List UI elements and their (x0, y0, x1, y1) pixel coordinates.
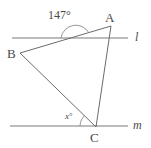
line-label-l: l (135, 31, 138, 43)
angle-arc-x (80, 115, 85, 126)
degree-symbol-x: ° (69, 111, 73, 121)
degree-symbol-147: ° (66, 8, 71, 22)
angle-value-147: 147 (48, 8, 66, 22)
segment-ab (20, 26, 111, 53)
angle-label-147: 147° (48, 9, 71, 21)
segment-ac (96, 26, 111, 127)
vertex-label-a: A (105, 11, 114, 24)
angle-label-x: x° (65, 112, 73, 121)
vertex-label-b: B (7, 47, 16, 60)
vertex-label-c: C (90, 131, 99, 144)
line-label-m: m (133, 119, 142, 131)
geometry-figure: A B C l m 147° x° (0, 0, 151, 148)
diagram-canvas (0, 0, 151, 148)
angle-arc-147 (61, 25, 89, 38)
